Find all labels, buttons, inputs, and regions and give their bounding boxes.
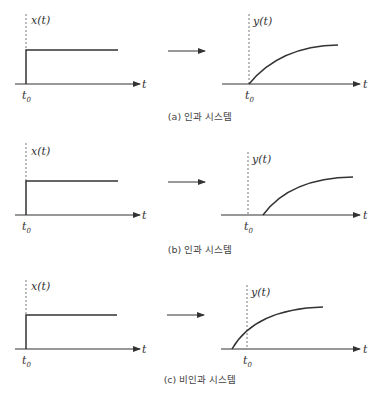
causal-systems-diagram: x(t) t t0 y(t) t t0 (a) 인과 시스템 x(t) t t0 bbox=[0, 0, 379, 397]
output-graph-a: y(t) t t0 bbox=[222, 14, 368, 104]
caption-c: (c) 비인과 시스템 bbox=[164, 374, 237, 385]
input-graph-b: x(t) t t0 bbox=[15, 143, 147, 235]
t0-label: t0 bbox=[243, 354, 252, 369]
output-label: y(t) bbox=[252, 15, 272, 28]
input-graph-a: x(t) t t0 bbox=[15, 14, 147, 104]
axis-label-t: t bbox=[363, 78, 368, 91]
step-input-signal bbox=[26, 181, 118, 215]
t0-label: t0 bbox=[22, 354, 31, 369]
t0-label: t0 bbox=[22, 89, 31, 104]
axis-label-t: t bbox=[363, 209, 368, 222]
output-label: y(t) bbox=[251, 153, 271, 166]
panel-c: x(t) t t0 y(t) t t0 (c) 비인과 시스템 bbox=[15, 280, 368, 385]
output-graph-c: y(t) t t0 bbox=[221, 285, 368, 369]
t0-label: t0 bbox=[244, 220, 253, 235]
input-label: x(t) bbox=[31, 145, 50, 158]
step-input-signal bbox=[26, 50, 118, 84]
input-graph-c: x(t) t t0 bbox=[15, 280, 147, 369]
input-label: x(t) bbox=[31, 280, 50, 293]
output-response-curve bbox=[232, 307, 323, 349]
output-graph-b: y(t) t t0 bbox=[221, 152, 368, 235]
t0-label: t0 bbox=[245, 89, 254, 104]
axis-label-t: t bbox=[142, 78, 147, 91]
axis-label-t: t bbox=[142, 209, 147, 222]
axis-label-t: t bbox=[363, 343, 368, 356]
axis-label-t: t bbox=[142, 343, 147, 356]
panel-b: x(t) t t0 y(t) t t0 (b) 인과 시스템 bbox=[15, 143, 368, 255]
output-response-curve bbox=[263, 177, 353, 215]
output-response-curve bbox=[249, 45, 338, 84]
t0-label: t0 bbox=[22, 220, 31, 235]
output-label: y(t) bbox=[250, 286, 270, 299]
caption-b: (b) 인과 시스템 bbox=[168, 244, 232, 255]
input-label: x(t) bbox=[31, 14, 50, 27]
panel-a: x(t) t t0 y(t) t t0 (a) 인과 시스템 bbox=[15, 14, 368, 122]
step-input-signal bbox=[26, 315, 117, 349]
caption-a: (a) 인과 시스템 bbox=[168, 111, 232, 122]
